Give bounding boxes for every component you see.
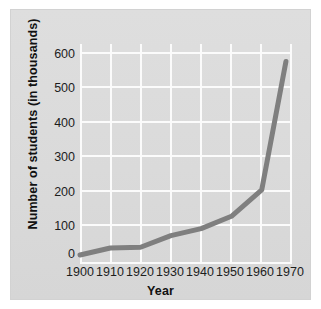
plot-area bbox=[80, 44, 292, 262]
x-tick-1900: 1900 bbox=[66, 266, 94, 279]
x-axis-label: Year bbox=[11, 284, 310, 298]
x-axis-tick-labels: 1900 1910 1920 1930 1940 1950 1960 1970 bbox=[11, 266, 310, 286]
x-tick-1960: 1960 bbox=[246, 266, 274, 279]
x-tick-1970: 1970 bbox=[276, 266, 304, 279]
x-tick-1910: 1910 bbox=[96, 266, 124, 279]
y-axis-label: Number of students (in thousands) bbox=[26, 19, 40, 230]
x-tick-1920: 1920 bbox=[126, 266, 154, 279]
chart-screenshot: 600 500 400 300 200 100 0 bbox=[0, 0, 321, 309]
y-axis-label-wrapper: Number of students (in thousands) bbox=[23, 14, 43, 234]
series-line-number-of-students bbox=[68, 32, 304, 274]
x-tick-1950: 1950 bbox=[216, 266, 244, 279]
x-tick-1930: 1930 bbox=[156, 266, 184, 279]
chart-panel: 600 500 400 300 200 100 0 bbox=[11, 10, 310, 299]
x-tick-1940: 1940 bbox=[186, 266, 214, 279]
